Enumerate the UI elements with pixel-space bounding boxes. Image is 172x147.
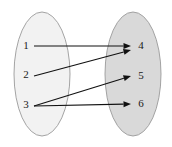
node-label-5: 5 bbox=[138, 69, 144, 81]
node-label-4: 4 bbox=[138, 39, 144, 51]
node-label-2: 2 bbox=[23, 68, 29, 80]
node-label-3: 3 bbox=[23, 98, 29, 110]
node-label-1: 1 bbox=[23, 39, 29, 51]
mapping-diagram-canvas: 1 2 3 4 5 6 bbox=[0, 0, 172, 147]
mapping-diagram: 1 2 3 4 5 6 bbox=[0, 0, 172, 147]
node-label-6: 6 bbox=[138, 97, 144, 109]
right-set-ellipse bbox=[105, 12, 161, 136]
